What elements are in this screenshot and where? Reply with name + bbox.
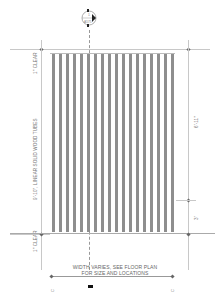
tube bbox=[143, 54, 146, 232]
tube bbox=[94, 54, 97, 232]
tube bbox=[157, 54, 160, 232]
section-marker-top: 1 bbox=[88, 13, 90, 17]
tube bbox=[136, 54, 139, 232]
grid-label-right: C bbox=[170, 289, 175, 292]
tube bbox=[171, 54, 174, 232]
bottom-section-marker-icon bbox=[88, 285, 93, 288]
tube bbox=[101, 54, 104, 232]
left-top-clear-label: 1" CLEAR bbox=[33, 52, 38, 74]
tube bbox=[73, 54, 76, 232]
tube bbox=[87, 54, 90, 232]
tube bbox=[164, 54, 167, 232]
right-lower-dimension: 3' bbox=[194, 216, 199, 220]
right-middle-extension bbox=[176, 200, 196, 201]
left-bottom-extension bbox=[10, 234, 50, 235]
tube bbox=[66, 54, 69, 232]
width-right-arrow bbox=[170, 274, 174, 278]
tube bbox=[108, 54, 111, 232]
section-marker: 1 A575 bbox=[80, 8, 100, 28]
section-cut-marker-icon bbox=[79, 7, 103, 31]
tube bbox=[80, 54, 83, 232]
bottom-right-dimension-arrow bbox=[186, 232, 190, 236]
tube bbox=[129, 54, 132, 232]
width-dimension-line bbox=[51, 276, 173, 277]
tube bbox=[59, 54, 62, 232]
tube bbox=[122, 54, 125, 232]
floor-line bbox=[10, 233, 215, 234]
tube bbox=[150, 54, 153, 232]
right-upper-dimension: 6'-11" bbox=[194, 116, 199, 128]
tube bbox=[115, 54, 118, 232]
grid-label-left: C bbox=[50, 289, 55, 292]
width-left-arrow bbox=[49, 274, 53, 278]
tube bbox=[52, 54, 55, 232]
section-marker-bottom: A575 bbox=[84, 20, 91, 24]
left-overall-label: 9'-10", LINEAR SOLID WOOD TUBES bbox=[33, 118, 38, 200]
